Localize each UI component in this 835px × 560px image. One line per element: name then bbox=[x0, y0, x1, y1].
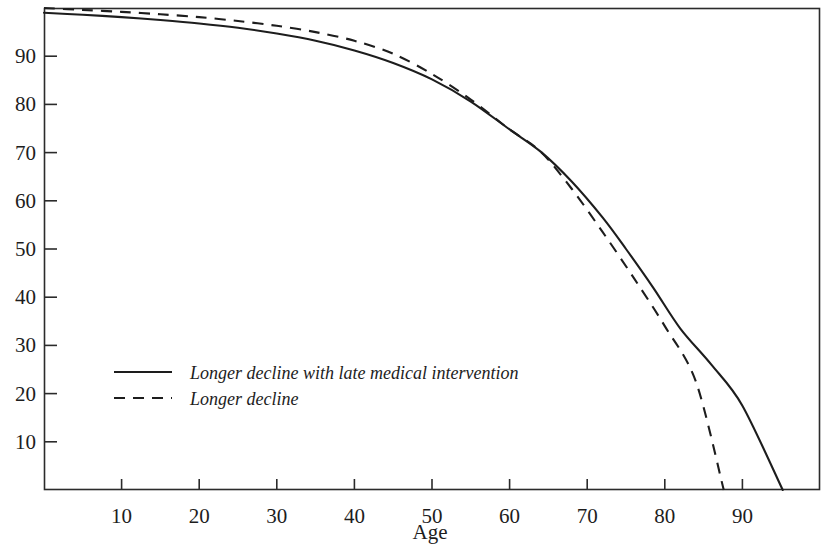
legend-label-1: Longer decline bbox=[190, 389, 298, 410]
chart-figure: 102030405060708090 102030405060708090 Ag… bbox=[0, 0, 835, 560]
x-tick-label: 90 bbox=[732, 506, 753, 527]
chart-plot-area bbox=[0, 0, 835, 560]
y-tick-label: 70 bbox=[0, 142, 36, 163]
x-axis-title: Age bbox=[413, 520, 448, 545]
y-tick-label: 10 bbox=[0, 431, 36, 452]
y-axis-ticks bbox=[44, 56, 57, 442]
x-tick-label: 40 bbox=[344, 506, 365, 527]
y-tick-label: 50 bbox=[0, 239, 36, 260]
y-tick-label: 80 bbox=[0, 94, 36, 115]
y-tick-label: 20 bbox=[0, 383, 36, 404]
x-tick-label: 70 bbox=[577, 506, 598, 527]
y-tick-label: 30 bbox=[0, 335, 36, 356]
series-line-longer-decline bbox=[44, 8, 724, 490]
x-axis-ticks bbox=[122, 479, 743, 490]
x-tick-label: 60 bbox=[499, 506, 520, 527]
x-tick-label: 20 bbox=[189, 506, 210, 527]
x-tick-label: 30 bbox=[266, 506, 287, 527]
x-tick-label: 10 bbox=[111, 506, 132, 527]
series-line-longer-decline-with-late-medical-intervention bbox=[44, 13, 783, 490]
y-tick-label: 40 bbox=[0, 287, 36, 308]
y-tick-label: 60 bbox=[0, 190, 36, 211]
x-tick-label: 80 bbox=[654, 506, 675, 527]
plot-frame bbox=[45, 9, 820, 490]
legend-label-0: Longer decline with late medical interve… bbox=[190, 363, 518, 384]
y-tick-label: 90 bbox=[0, 46, 36, 67]
